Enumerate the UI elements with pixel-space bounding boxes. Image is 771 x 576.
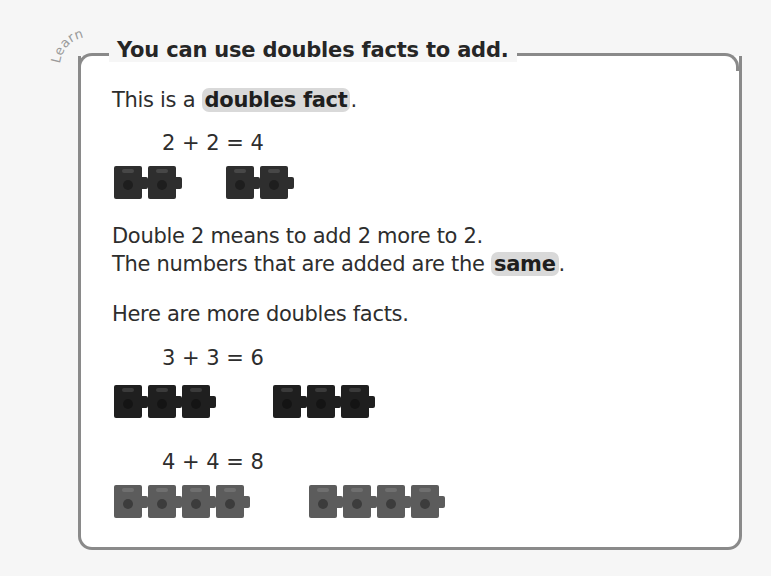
intro-suffix: . — [350, 88, 356, 112]
explanation-line-1: Double 2 means to add 2 more to 2. — [112, 224, 483, 248]
connecting-cube-icon — [114, 385, 142, 418]
cube-group-right — [273, 385, 369, 418]
connecting-cube-icon — [182, 485, 210, 518]
cube-group-right — [309, 485, 439, 518]
connecting-cube-icon — [411, 485, 439, 518]
connecting-cube-icon — [148, 385, 176, 418]
intro-highlight-term: doubles fact — [202, 88, 351, 112]
connecting-cube-icon — [343, 485, 371, 518]
cube-group-left — [114, 166, 176, 199]
fact-equation-2: 4 + 4 = 8 — [162, 450, 264, 474]
fact-equation-1: 3 + 3 = 6 — [162, 346, 264, 370]
connecting-cube-icon — [226, 166, 254, 199]
explanation-prefix: The numbers that are added are the — [112, 252, 491, 276]
connecting-cube-icon — [148, 485, 176, 518]
connecting-cube-icon — [216, 485, 244, 518]
cube-group-left — [114, 485, 244, 518]
connecting-cube-icon — [148, 166, 176, 199]
fact-cubes-2 — [114, 485, 439, 518]
connecting-cube-icon — [114, 485, 142, 518]
connecting-cube-icon — [182, 385, 210, 418]
example-cubes — [114, 166, 288, 199]
connecting-cube-icon — [260, 166, 288, 199]
more-facts-intro: Here are more doubles facts. — [112, 302, 409, 326]
connecting-cube-icon — [273, 385, 301, 418]
intro-prefix: This is a — [112, 88, 202, 112]
explanation-line-2: The numbers that are added are the same. — [112, 252, 565, 276]
connecting-cube-icon — [377, 485, 405, 518]
example-equation: 2 + 2 = 4 — [162, 131, 264, 155]
explanation-suffix: . — [559, 252, 565, 276]
connecting-cube-icon — [341, 385, 369, 418]
explanation-highlight-term: same — [491, 252, 559, 276]
intro-text: This is a doubles fact. — [112, 88, 357, 112]
lesson-title: You can use doubles facts to add. — [109, 38, 517, 62]
connecting-cube-icon — [309, 485, 337, 518]
connecting-cube-icon — [307, 385, 335, 418]
connecting-cube-icon — [114, 166, 142, 199]
fact-cubes-1 — [114, 385, 369, 418]
cube-group-right — [226, 166, 288, 199]
cube-group-left — [114, 385, 210, 418]
